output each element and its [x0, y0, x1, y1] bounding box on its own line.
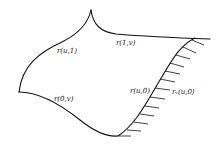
label-r-u-0: r(u,0)	[130, 87, 150, 95]
surface-patch-diagram: r(u,1) r(1,v) r(0,v) r(u,0) rᵥ(u,0)	[0, 0, 223, 150]
curve-r-1-v	[91, 10, 210, 39]
label-r-u-1: r(u,1)	[57, 47, 77, 55]
label-r-0-v: r(0,v)	[54, 95, 74, 103]
curve-r-u-1	[19, 10, 91, 92]
label-r-1-v: r(1,v)	[116, 39, 136, 47]
label-r-v-u-0: rᵥ(u,0)	[172, 88, 195, 96]
